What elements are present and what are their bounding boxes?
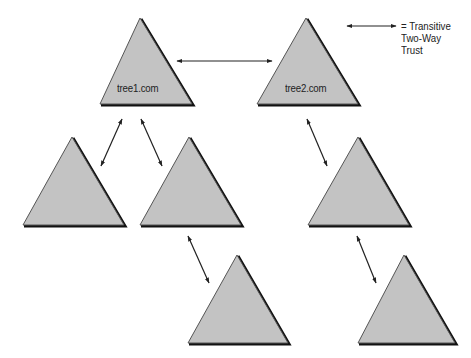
domain-triangle-child-a: [23, 137, 125, 226]
tree1-domain-label: tree1.com: [117, 82, 158, 94]
trust-arrow-tree1-child-b: [141, 119, 162, 166]
tree2-domain-label: tree2.com: [285, 82, 326, 94]
legend-line-3: Trust: [401, 44, 451, 56]
trust-arrow-child-b-grandchild-b: [188, 236, 209, 283]
domain-triangle-grandchild-c: [358, 255, 456, 344]
domain-triangle-grandchild-b: [188, 255, 289, 344]
trust-arrow-tree1-child-a: [101, 119, 122, 166]
domain-trees: [23, 18, 456, 344]
trust-arrow-tree2-child-c: [307, 119, 327, 166]
trust-arrow-child-c-grandchild-c: [357, 236, 376, 283]
legend-description: = Transitive Two-Way Trust: [401, 20, 451, 56]
legend-line-2: Two-Way: [401, 32, 451, 44]
domain-triangle-child-c: [308, 137, 410, 226]
legend-line-1: = Transitive: [401, 20, 451, 32]
triangle-body: [358, 255, 455, 343]
triangle-body: [23, 137, 124, 225]
triangle-body: [308, 137, 409, 225]
